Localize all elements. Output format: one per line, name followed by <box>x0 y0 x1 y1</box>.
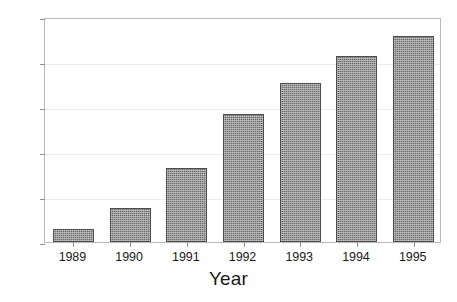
x-axis-title: Year <box>0 268 457 290</box>
y-axis-tick <box>40 109 45 110</box>
x-axis-tick-label: 1995 <box>399 250 426 264</box>
gridline <box>45 109 440 110</box>
bar <box>393 36 434 242</box>
x-axis-tick-label: 1991 <box>172 250 199 264</box>
x-axis-tick <box>244 242 245 247</box>
gridline <box>45 64 440 65</box>
plot-area <box>44 18 441 243</box>
bar <box>53 229 94 242</box>
y-axis-tick <box>40 244 45 245</box>
bar <box>280 83 321 242</box>
x-axis-tick <box>130 242 131 247</box>
x-axis-tick <box>73 242 74 247</box>
bar <box>166 168 207 242</box>
y-axis-tick <box>40 154 45 155</box>
bar <box>223 114 264 242</box>
y-axis-tick <box>40 19 45 20</box>
x-axis-tick-label: 1994 <box>342 250 369 264</box>
x-axis-tick-label: 1989 <box>59 250 86 264</box>
bar-chart: 020406080100 198919901991199219931994199… <box>0 0 457 302</box>
bar <box>110 208 151 242</box>
x-axis-tick <box>300 242 301 247</box>
x-axis-tick <box>357 242 358 247</box>
y-axis-tick <box>40 199 45 200</box>
x-axis-tick <box>187 242 188 247</box>
x-axis-tick <box>414 242 415 247</box>
x-axis-tick-label: 1993 <box>285 250 312 264</box>
bar <box>336 56 377 242</box>
x-axis-tick-label: 1990 <box>115 250 142 264</box>
y-axis-tick <box>40 64 45 65</box>
x-axis-tick-label: 1992 <box>229 250 256 264</box>
